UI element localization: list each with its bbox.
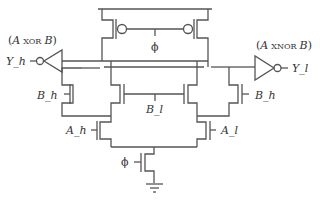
nmos-clock xyxy=(134,147,154,183)
input-label-a-l: A_l xyxy=(220,124,238,137)
pmos-right xyxy=(184,9,209,67)
pmos-left xyxy=(102,9,127,61)
inversion-bubble-icon xyxy=(184,25,193,34)
input-label-a-h: A_h xyxy=(65,124,87,137)
function-label-xnor: (AXNORB) xyxy=(256,39,312,52)
inverter-left xyxy=(30,50,62,72)
right-pair xyxy=(184,61,249,116)
function-label-xor: (AXORB) xyxy=(8,34,57,47)
nmos-a-h xyxy=(91,116,111,147)
inversion-bubble-icon xyxy=(37,58,44,65)
output-label-y-l: Y_l xyxy=(292,62,309,75)
inversion-bubble-icon xyxy=(118,25,127,34)
clock-label-top: ϕ xyxy=(151,41,159,54)
inverter-right xyxy=(233,56,288,80)
circuit-diagram: ϕ Y_h (AXORB) Y_l (AXNORB) B_h B_l xyxy=(0,0,320,210)
input-label-b-h-left: B_h xyxy=(36,89,58,102)
nmos-a-l xyxy=(197,116,216,147)
left-pair xyxy=(62,61,124,116)
ground-icon xyxy=(146,184,163,192)
clock-label-bottom: ϕ xyxy=(121,156,129,169)
input-label-b-h-right: B_h xyxy=(254,89,276,102)
output-label-y-h: Y_h xyxy=(6,55,26,68)
input-label-b-l: B_l xyxy=(145,103,164,116)
